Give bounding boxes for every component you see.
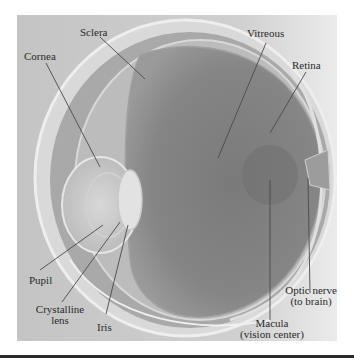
bottom-rule — [0, 355, 354, 358]
label-sclera: Sclera — [80, 27, 107, 38]
label-cornea: Cornea — [24, 51, 56, 62]
label-vitreous: Vitreous — [247, 28, 284, 39]
label-optic-nerve: Optic nerve (to brain) — [279, 285, 343, 307]
crystalline-lens-shape — [118, 170, 142, 230]
label-crystalline-lens-line2: lens — [34, 315, 86, 326]
label-crystalline-lens: Crystalline lens — [34, 304, 86, 326]
label-macula-line2: (vision center) — [237, 329, 307, 340]
label-iris: Iris — [97, 322, 112, 333]
eye-anatomy-figure: Sclera Cornea Vitreous Retina Pupil Crys… — [0, 0, 354, 360]
label-optic-nerve-line2: (to brain) — [279, 296, 343, 307]
label-macula: Macula (vision center) — [237, 318, 307, 340]
label-retina: Retina — [292, 60, 321, 71]
label-pupil: Pupil — [29, 275, 52, 286]
